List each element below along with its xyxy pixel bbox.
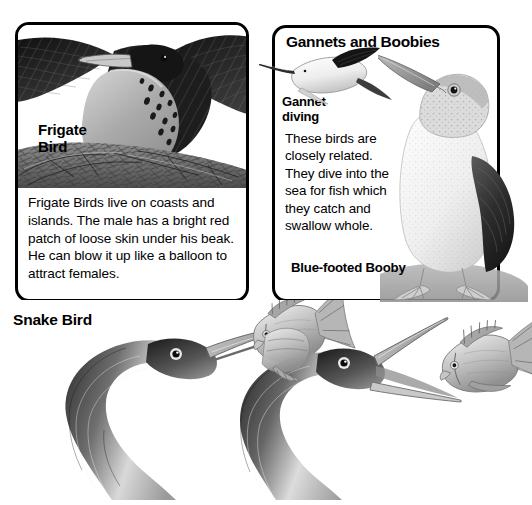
- frigate-bird-panel: Frigate Bird Frigate Birds live on coast…: [15, 22, 249, 302]
- blue-footed-booby-caption: Blue-footed Booby: [291, 260, 406, 275]
- frigate-bird-on-nest-illustration: [18, 25, 246, 188]
- gannet-diving-illustration: [258, 44, 408, 106]
- frigate-bird-label: Frigate Bird: [38, 122, 87, 156]
- gannets-and-boobies-title: Gannets and Boobies: [286, 33, 440, 51]
- snake-bird-with-fish-illustration: [0, 300, 532, 505]
- gannets-and-boobies-description: These birds are closely related. They di…: [285, 130, 403, 235]
- snake-bird-artwork: [0, 300, 532, 505]
- frigate-bird-description: Frigate Birds live on coasts and islands…: [18, 190, 246, 283]
- frigate-bird-artwork: [18, 25, 246, 188]
- snake-bird-heading: Snake Bird: [13, 311, 92, 329]
